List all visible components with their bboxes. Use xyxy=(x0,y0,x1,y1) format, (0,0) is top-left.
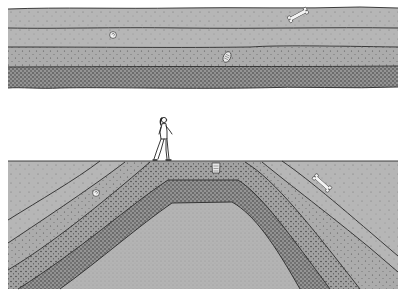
layer-4-bottom xyxy=(8,66,398,88)
snail-shell-fossil-icon xyxy=(93,190,100,197)
strata-diagram xyxy=(0,0,408,299)
person-walking-icon xyxy=(153,117,172,160)
layer-1-top xyxy=(8,7,398,28)
folded-strata-panel xyxy=(8,117,398,289)
snail-shell-fossil-icon xyxy=(110,32,117,39)
horizontal-strata-panel xyxy=(8,7,398,89)
layer-3 xyxy=(8,46,398,67)
trilobite-fossil-icon xyxy=(212,163,220,173)
layer-2 xyxy=(8,28,398,48)
